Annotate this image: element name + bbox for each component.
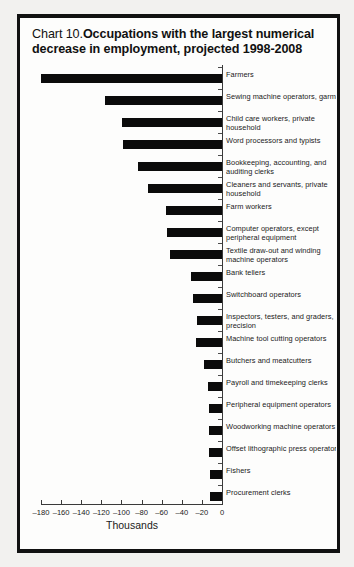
chart-frame: Chart 10.Occupations with the largest nu… [17, 14, 340, 553]
x-axis: –180–160–140–120–100–80–60–40–200 Thousa… [21, 504, 336, 544]
category-label: Procurement clerks [226, 489, 336, 498]
category-tick [218, 463, 222, 464]
category-tick [218, 155, 222, 156]
category-label: Child care workers, private household [226, 115, 336, 132]
category-label: Machine tool cutting operators [226, 335, 336, 344]
bar [196, 338, 222, 347]
x-tick [162, 500, 163, 505]
x-tick [202, 500, 203, 505]
bar [170, 250, 222, 259]
category-label: Switchboard operators [226, 291, 336, 300]
category-tick [218, 353, 222, 354]
category-tick [218, 441, 222, 442]
bar [138, 162, 222, 171]
category-label: Word processors and typists [226, 137, 336, 146]
category-tick [218, 485, 222, 486]
category-label: Peripheral equipment operators [226, 401, 336, 410]
category-label: Sewing machine operators, garment [226, 93, 336, 102]
category-tick [218, 221, 222, 222]
category-tick [218, 397, 222, 398]
bar [105, 96, 222, 105]
category-label: Payroll and timekeeping clerks [226, 379, 336, 388]
bar [148, 184, 222, 193]
bar [210, 470, 222, 479]
category-label: Inspectors, testers, and graders, precis… [226, 313, 336, 330]
category-label: Bank tellers [226, 269, 336, 278]
category-label: Fishers [226, 467, 336, 476]
bar [191, 272, 222, 281]
category-label: Farm workers [226, 203, 336, 212]
x-tick [182, 500, 183, 505]
category-tick [218, 309, 222, 310]
x-tick-label: –180 [33, 508, 50, 517]
bar [210, 492, 222, 501]
bar [209, 426, 222, 435]
category-label: Computer operators, except peripheral eq… [226, 225, 336, 242]
category-tick [218, 111, 222, 112]
category-label: Cleaners and servants, private household [226, 181, 336, 198]
category-tick [218, 199, 222, 200]
x-axis-title: Thousands [41, 519, 223, 531]
category-tick [218, 177, 222, 178]
x-tick [121, 500, 122, 505]
category-tick [218, 331, 222, 332]
category-label: Farmers [226, 71, 336, 80]
page-title: Chart 10.Occupations with the largest nu… [32, 27, 328, 56]
category-label: Textile draw-out and winding machine ope… [226, 247, 336, 264]
x-tick-label: –100 [113, 508, 130, 517]
x-axis-line [41, 504, 223, 505]
x-tick-label: –40 [175, 508, 188, 517]
x-tick-label: –20 [196, 508, 209, 517]
bar [197, 316, 222, 325]
bar [122, 118, 222, 127]
bar [123, 140, 222, 149]
x-tick-label: –80 [135, 508, 148, 517]
chart-canvas: Chart 10.Occupations with the largest nu… [21, 19, 336, 548]
x-tick-label: –160 [53, 508, 70, 517]
category-label: Woodworking machine operators [226, 423, 336, 432]
x-tick [61, 500, 62, 505]
category-tick [218, 67, 222, 68]
plot-area: FarmersSewing machine operators, garment… [21, 65, 336, 520]
category-tick [218, 89, 222, 90]
x-tick-label: –60 [155, 508, 168, 517]
bar [209, 448, 222, 457]
bar [193, 294, 222, 303]
x-tick [41, 500, 42, 505]
bar [209, 404, 222, 413]
x-tick [142, 500, 143, 505]
category-tick [218, 287, 222, 288]
category-label: Offset lithographic press operators [226, 445, 336, 454]
category-tick [218, 419, 222, 420]
bar [204, 360, 222, 369]
category-tick [218, 375, 222, 376]
x-tick-label: 0 [220, 508, 224, 517]
x-tick [81, 500, 82, 505]
category-tick [218, 133, 222, 134]
x-tick [101, 500, 102, 505]
category-tick [218, 243, 222, 244]
bar [167, 228, 222, 237]
x-tick-label: –140 [73, 508, 90, 517]
category-label: Butchers and meatcutters [226, 357, 336, 366]
bar [208, 382, 222, 391]
x-tick [222, 500, 223, 505]
chart-number: Chart 10. [32, 27, 83, 41]
x-tick-label: –120 [93, 508, 110, 517]
bar [166, 206, 222, 215]
zero-axis-line [222, 65, 223, 504]
category-label: Bookkeeping, accounting, and auditing cl… [226, 159, 336, 176]
bar [41, 74, 222, 83]
category-tick [218, 265, 222, 266]
